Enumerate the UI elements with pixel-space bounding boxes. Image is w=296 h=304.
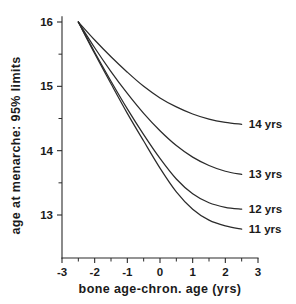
series-label-12-yrs: 12 yrs [249,203,282,215]
series-label-14-yrs: 14 yrs [249,118,282,130]
y-tick-label: 15 [40,80,53,92]
series-label-13-yrs: 13 yrs [249,168,282,180]
x-tick-label: 2 [222,266,228,278]
x-tick-label: -1 [122,266,133,278]
x-tick-label: 0 [157,266,163,278]
y-axis-title: age at menarche: 95% limits [9,56,23,234]
data-curves [78,22,241,229]
y-tick-label: 13 [40,209,53,221]
chart-figure: 13141516-3-2-10123 14 yrs13 yrs12 yrs11 … [0,0,296,304]
x-tick-label: 3 [255,266,261,278]
x-tick-label: -3 [57,266,67,278]
line-chart: 13141516-3-2-10123 14 yrs13 yrs12 yrs11 … [0,0,296,304]
series-label-11-yrs: 11 yrs [249,223,282,235]
x-tick-label: 1 [189,266,196,278]
x-axis-title: bone age-chron. age (yrs) [79,282,242,296]
curve-14-yrs [78,22,241,124]
series-labels: 14 yrs13 yrs12 yrs11 yrs [249,118,282,235]
x-tick-label: -2 [90,266,100,278]
curve-12-yrs [78,22,241,209]
y-tick-label: 14 [40,145,53,157]
curve-11-yrs [78,22,241,229]
y-tick-label: 16 [40,16,53,28]
axis-tick-labels: 13141516-3-2-10123 [40,16,261,278]
axes [62,17,258,258]
